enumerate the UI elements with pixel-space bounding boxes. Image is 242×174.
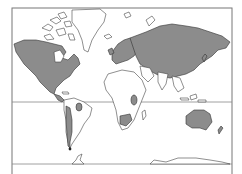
antarctica	[150, 158, 230, 164]
world-map	[0, 0, 242, 174]
caribbean-islands	[62, 92, 69, 94]
southeast-asia	[172, 76, 184, 92]
indonesia-islands	[180, 94, 206, 102]
india	[158, 72, 168, 90]
greenland	[72, 9, 106, 52]
new-zealand	[218, 126, 223, 134]
arctic-archipelago	[42, 12, 75, 40]
central-america	[54, 94, 64, 102]
australia	[186, 110, 212, 130]
tierra-del-fuego	[69, 148, 72, 151]
amazon-patch	[76, 103, 82, 111]
madagascar	[142, 110, 146, 120]
iceland	[104, 34, 112, 39]
novaya-zemlya	[146, 16, 155, 26]
central-africa-patch	[131, 95, 137, 105]
north-america	[14, 40, 80, 94]
svalbard	[124, 12, 131, 18]
antarctic-peninsula	[72, 154, 84, 164]
world-map-svg	[0, 0, 242, 174]
